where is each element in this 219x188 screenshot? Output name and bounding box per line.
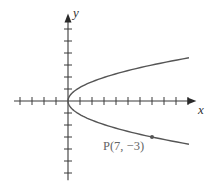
x-axis-label: x [197,102,204,117]
point-p-label: P(7, −3) [103,139,144,153]
y-axis-arrow-icon [65,13,72,22]
point-p-marker [150,135,154,139]
parabola-chart: x y P(7, −3) [0,0,219,188]
y-axis-label: y [71,5,79,20]
x-axis-arrow-icon [187,98,196,105]
